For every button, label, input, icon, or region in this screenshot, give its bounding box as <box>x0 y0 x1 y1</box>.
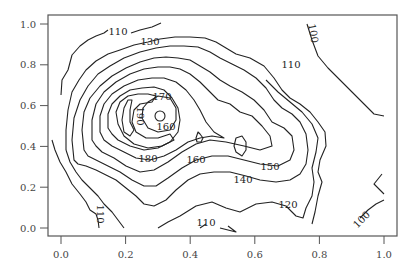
contour-chart: 0.0 0.2 0.4 0.6 0.8 1.0 0.0 0.2 0.4 0.6 … <box>0 0 418 274</box>
x-axis: 0.0 0.2 0.4 0.6 0.8 1.0 <box>53 236 392 260</box>
contour-label: 190 <box>135 106 146 125</box>
contour-label: 150 <box>260 161 279 172</box>
x-tick-label: 0.6 <box>247 249 263 260</box>
x-tick-label: 1.0 <box>376 249 392 260</box>
contour-label: 100 <box>306 23 320 44</box>
contour-label: 110 <box>281 59 300 70</box>
y-tick-label: 0.2 <box>20 182 36 193</box>
x-tick-label: 0.4 <box>182 249 198 260</box>
y-axis: 0.0 0.2 0.4 0.6 0.8 1.0 <box>20 19 48 234</box>
contour-lines <box>52 23 384 232</box>
contour-labels: 110 130 100 110 170 190 160 180 160 150 … <box>95 23 372 230</box>
contour-label: 160 <box>156 121 175 132</box>
contour-label: 100 <box>351 209 372 230</box>
contour-label: 160 <box>186 154 205 165</box>
contour-label: 120 <box>278 199 297 210</box>
y-tick-label: 0.4 <box>20 141 36 152</box>
contour-label: 170 <box>152 91 171 102</box>
contour-label: 140 <box>233 174 252 185</box>
y-tick-label: 0.6 <box>20 100 36 111</box>
contour-label: 110 <box>196 217 215 228</box>
contour-label: 110 <box>95 204 106 223</box>
contour-label: 180 <box>138 153 157 164</box>
x-tick-label: 0.8 <box>311 249 327 260</box>
y-tick-label: 0.0 <box>20 223 36 234</box>
x-tick-label: 0.2 <box>118 249 134 260</box>
y-tick-label: 0.8 <box>20 59 36 70</box>
x-tick-label: 0.0 <box>53 249 69 260</box>
contour-label: 130 <box>140 36 159 47</box>
contour-label: 110 <box>108 26 127 37</box>
y-tick-label: 1.0 <box>20 19 36 30</box>
